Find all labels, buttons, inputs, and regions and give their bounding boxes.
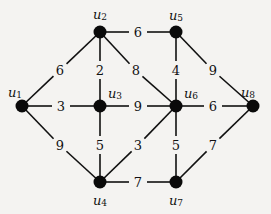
edge-u7-u8: 7 (176, 106, 253, 182)
node-u6: u6 (170, 86, 199, 113)
edge-weight-label: 3 (57, 99, 65, 114)
edge-weight-label: 2 (96, 63, 104, 78)
edge-u4-u7: 7 (100, 175, 176, 190)
node-u7: u7 (169, 176, 183, 209)
edge-weight-label: 8 (132, 63, 140, 78)
vertex-dot (94, 100, 107, 113)
edge-weight-label: 6 (134, 25, 142, 40)
vertex-dot (16, 100, 29, 113)
vertex-dot (94, 26, 107, 39)
edge-u3-u4: 5 (96, 106, 104, 182)
edge-u1-u2: 6 (22, 32, 100, 106)
vertex-dot (170, 176, 183, 189)
edge-weight-label: 9 (209, 63, 217, 78)
vertex-dot (170, 100, 183, 113)
edge-weight-label: 3 (134, 138, 142, 153)
edge-weight-label: 6 (209, 99, 217, 114)
edge-u6-u8: 6 (176, 99, 253, 114)
vertex-label: u6 (184, 86, 198, 102)
vertex-label: u4 (93, 193, 107, 209)
edge-weight-label: 5 (96, 138, 104, 153)
edge-weight-label: 6 (56, 63, 64, 78)
vertex-label: u5 (169, 8, 183, 24)
edge-u1-u3: 3 (22, 99, 100, 114)
edge-u1-u4: 9 (22, 106, 100, 182)
vertex-dot (94, 176, 107, 189)
vertex-label: u2 (93, 7, 107, 23)
edge-weight-label: 7 (134, 175, 142, 190)
edge-u5-u6: 4 (172, 32, 180, 106)
vertex-label: u7 (169, 193, 183, 209)
node-u8: u8 (241, 85, 260, 113)
graph-svg: 639268953749657u1u2u3u4u5u6u7u8 (0, 0, 271, 214)
edge-u6-u7: 5 (172, 106, 180, 182)
node-u5: u5 (169, 8, 183, 39)
vertex-label: u3 (108, 86, 122, 102)
node-u3: u3 (94, 86, 123, 113)
edge-weight-label: 7 (209, 138, 217, 153)
edge-weight-label: 5 (172, 138, 180, 153)
vertex-dot (170, 26, 183, 39)
node-u2: u2 (93, 7, 107, 39)
edge-weight-label: 4 (172, 63, 180, 78)
vertex-label: u8 (241, 85, 255, 101)
vertex-label: u1 (8, 85, 22, 101)
edge-weight-label: 9 (134, 99, 142, 114)
edge-u4-u6: 3 (100, 106, 176, 182)
edge-u2-u5: 6 (100, 25, 176, 40)
graph-diagram: 639268953749657u1u2u3u4u5u6u7u8 (0, 0, 271, 214)
edge-weight-label: 9 (56, 138, 64, 153)
node-u4: u4 (93, 176, 107, 209)
edge-u2-u3: 2 (96, 32, 104, 106)
node-u1: u1 (8, 85, 29, 113)
edge-u3-u6: 9 (100, 99, 176, 114)
vertex-dot (247, 100, 260, 113)
